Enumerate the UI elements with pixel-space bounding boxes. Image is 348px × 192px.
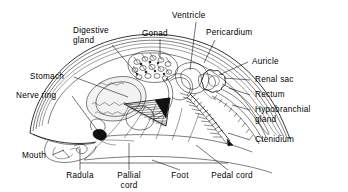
renal-sac-outline (202, 70, 226, 93)
pallial-cord-branch (100, 140, 134, 141)
leader-foot (152, 160, 180, 170)
label-hypobranchial-gland-line1: Hypobranchial (255, 105, 311, 114)
leader-rectum (229, 88, 250, 95)
digestive-gland-loop (86, 76, 146, 120)
nerve-commissure (100, 140, 116, 145)
label-mouth: Mouth (22, 151, 46, 160)
label-radula: Radula (66, 171, 94, 180)
leader-digestive-gland (112, 45, 137, 74)
leader-renal-sac (224, 78, 250, 80)
label-gonad: Gonad (142, 29, 168, 38)
label-digestive-gland-line1: Digestive (73, 26, 109, 35)
nerve-ring-group (90, 119, 116, 145)
head-upper-edge (30, 133, 96, 144)
label-hypobranchial-gland-line2: gland (255, 115, 276, 124)
radula-sac (74, 144, 87, 153)
label-auricle: Auricle (252, 57, 279, 66)
diagram-canvas: Digestive gland Gonad Ventricle Pericard… (0, 0, 348, 192)
heart-vessel (203, 89, 216, 100)
nerve-ring-loop (90, 119, 105, 130)
mouth-opening (62, 150, 69, 158)
leader-ctenidium (228, 133, 250, 140)
label-nerve-ring: Nerve ring (16, 91, 56, 100)
label-ventricle: Ventricle (172, 11, 206, 20)
label-pallial-cord-line1: Pallial (117, 171, 141, 180)
label-ctenidium: Ctenidium (255, 135, 294, 144)
label-pericardium: Pericardium (206, 28, 252, 37)
leader-mouth (52, 150, 64, 155)
anatomical-diagram: Digestive gland Gonad Ventricle Pericard… (0, 0, 348, 192)
foot-left-edge (84, 136, 108, 160)
renal-sac-inner (209, 76, 220, 87)
label-rectum: Rectum (255, 90, 285, 99)
snout-inner-fold (53, 147, 73, 159)
gonad-group (128, 51, 178, 83)
leader-hypobranchial-gland (232, 105, 250, 110)
nerve-ring-ganglion (93, 129, 107, 140)
shell-inner-edge (42, 47, 277, 135)
ctenidium-filaments-upper (180, 93, 222, 137)
ctenidium-group (180, 93, 233, 146)
radula-ribbon (70, 148, 80, 152)
label-pallial-cord-line2: cord (121, 181, 138, 190)
pericardium-outline (175, 63, 208, 94)
label-digestive-gland-line2: gland (73, 36, 94, 45)
label-stomach: Stomach (30, 72, 64, 81)
label-foot: Foot (171, 171, 189, 180)
pedal-cord-line-4 (172, 108, 182, 140)
renal-sac-group (202, 70, 226, 93)
label-renal-sac: Renal sac (255, 75, 294, 84)
ctenidium-axis (190, 94, 230, 141)
label-pedal-cord: Pedal cord (211, 171, 253, 180)
leader-pedal-cord (196, 145, 228, 170)
